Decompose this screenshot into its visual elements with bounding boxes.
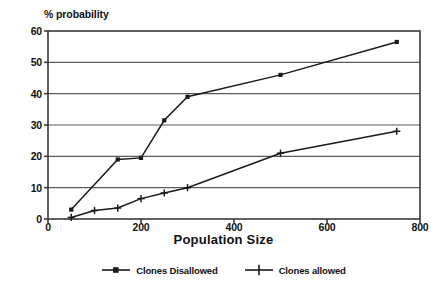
x-axis-title: Population Size [0,232,447,247]
y-tick-label: 50 [12,56,42,68]
y-tick-label: 60 [12,25,42,37]
y-tick-label: 30 [12,119,42,131]
chart-legend: Clones Disallowed Clones allowed [0,264,447,276]
plus-marker-icon [244,264,274,276]
square-marker-icon [101,264,131,276]
y-tick-label: 40 [12,88,42,100]
plot-area [0,0,447,299]
legend-label: Clones allowed [279,265,346,276]
chart-container: % probability 0102030405060 020040060080… [0,0,447,299]
legend-label: Clones Disallowed [136,265,217,276]
grid-lines [48,62,420,187]
data-series-group [68,40,401,221]
legend-item-clones-disallowed: Clones Disallowed [101,264,217,276]
legend-item-clones-allowed: Clones allowed [244,264,346,276]
y-tick-label: 10 [12,182,42,194]
y-tick-label: 20 [12,150,42,162]
